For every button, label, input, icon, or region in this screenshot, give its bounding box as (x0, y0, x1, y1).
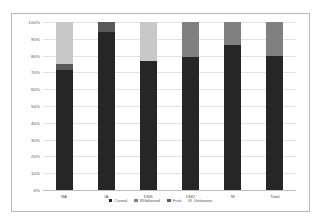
y-axis-tick-label: 80% (31, 53, 40, 58)
y-axis-tick-label: 60% (31, 87, 40, 92)
legend-item[interactable]: Fruit (167, 198, 181, 203)
bar-column[interactable]: Total (266, 22, 283, 190)
bar-segment[interactable] (98, 22, 115, 32)
bar-segment[interactable] (56, 22, 73, 64)
bar-column[interactable]: DM1 (140, 22, 157, 190)
gridline (43, 22, 296, 23)
plot-area: 100%90%80%70%60%50%40%30%20%10%0% BAIADM… (43, 22, 296, 190)
gridline (43, 72, 296, 73)
bar-stack (182, 22, 199, 190)
legend-item[interactable]: Cereal (109, 198, 127, 203)
legend-swatch-icon (167, 199, 171, 203)
bar-segment[interactable] (224, 45, 241, 190)
legend-label: Cereal (114, 198, 127, 203)
gridline (43, 39, 296, 40)
bar-segment[interactable] (56, 70, 73, 190)
bar-segment[interactable] (56, 64, 73, 70)
gridline (43, 173, 296, 174)
gridline (43, 190, 296, 191)
legend-item[interactable]: Unknown (188, 198, 212, 203)
gridline (43, 56, 296, 57)
y-axis-tick-label: 40% (31, 120, 40, 125)
y-axis-tick-label: 10% (31, 171, 40, 176)
bar-column[interactable]: M (224, 22, 241, 190)
gridline (43, 140, 296, 141)
bar-segment[interactable] (140, 61, 157, 190)
bar-stack (98, 22, 115, 190)
gridline (43, 89, 296, 90)
bar-stack (266, 22, 283, 190)
bar-segment[interactable] (266, 22, 283, 56)
legend-label: Unknown (194, 198, 212, 203)
bar-segment[interactable] (98, 32, 115, 190)
legend-item[interactable]: Wild/weed (134, 198, 160, 203)
y-axis-tick-label: 50% (31, 104, 40, 109)
legend-swatch-icon (134, 199, 138, 203)
bar-column[interactable]: BA (56, 22, 73, 190)
bar-stack (140, 22, 157, 190)
bar-stack (56, 22, 73, 190)
bar-segment[interactable] (182, 57, 199, 190)
legend-swatch-icon (109, 199, 113, 203)
gridline (43, 123, 296, 124)
bar-segment[interactable] (140, 22, 157, 61)
y-axis-tick-label: 20% (31, 154, 40, 159)
chart-legend: CerealWild/weedFruitUnknown (12, 198, 309, 203)
bar-segment[interactable] (182, 22, 199, 57)
gridline (43, 156, 296, 157)
legend-label: Wild/weed (140, 198, 160, 203)
y-axis-tick-label: 100% (28, 20, 40, 25)
legend-label: Fruit (173, 198, 182, 203)
y-axis-tick-label: 90% (31, 36, 40, 41)
bar-segment[interactable] (266, 56, 283, 190)
bar-stack (224, 22, 241, 190)
bar-column[interactable]: DM2 (182, 22, 199, 190)
bar-column[interactable]: IA (98, 22, 115, 190)
bar-segment[interactable] (224, 22, 241, 45)
y-axis-tick-label: 0% (33, 188, 40, 193)
legend-swatch-icon (188, 199, 192, 203)
y-axis-tick-label: 30% (31, 137, 40, 142)
gridline (43, 106, 296, 107)
chart-frame: 100%90%80%70%60%50%40%30%20%10%0% BAIADM… (11, 13, 310, 212)
y-axis-tick-label: 70% (31, 70, 40, 75)
